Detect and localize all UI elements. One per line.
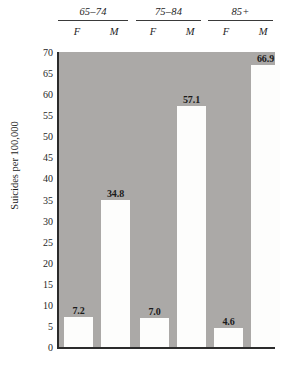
sex-label-85-plus-female: F bbox=[211, 26, 241, 37]
y-tick-50: 50 bbox=[27, 131, 53, 142]
bar-65-74-female bbox=[64, 317, 93, 347]
sex-label-75-84-female: F bbox=[138, 26, 168, 37]
y-tick-60: 60 bbox=[27, 89, 53, 100]
y-axis-label: Suicides per 100,000 bbox=[9, 96, 20, 236]
y-axis-ticks: 70 65 60 55 50 45 40 35 30 25 20 15 10 5… bbox=[25, 52, 53, 347]
y-tick-30: 30 bbox=[27, 215, 53, 226]
y-tick-65: 65 bbox=[27, 68, 53, 79]
y-tick-20: 20 bbox=[27, 257, 53, 268]
y-tick-25: 25 bbox=[27, 236, 53, 247]
sex-label-75-84-male: M bbox=[175, 26, 205, 37]
y-tick-40: 40 bbox=[27, 173, 53, 184]
group-rule-85-plus bbox=[208, 20, 273, 21]
group-label-65-74: 65–74 bbox=[58, 6, 128, 18]
y-tick-35: 35 bbox=[27, 194, 53, 205]
sex-label-85-plus-male: M bbox=[248, 26, 278, 37]
bar-65-74-male bbox=[101, 200, 130, 347]
y-tick-10: 10 bbox=[27, 299, 53, 310]
group-label-75-84: 75–84 bbox=[136, 6, 201, 18]
bar-85-plus-female bbox=[214, 328, 243, 347]
bar-value-65-74-female: 7.2 bbox=[59, 305, 99, 316]
bar-value-65-74-male: 34.8 bbox=[96, 188, 136, 199]
plot-area: 7.2 34.8 7.0 57.1 4.6 66.9 bbox=[57, 52, 275, 349]
group-rule-75-84 bbox=[136, 20, 201, 21]
y-tick-70: 70 bbox=[27, 47, 53, 58]
y-tick-45: 45 bbox=[27, 152, 53, 163]
bar-85-plus-male bbox=[251, 65, 280, 347]
sex-label-65-74-female: F bbox=[62, 26, 92, 37]
sex-label-65-74-male: M bbox=[99, 26, 129, 37]
y-tick-5: 5 bbox=[27, 320, 53, 331]
bar-75-84-male bbox=[177, 106, 206, 347]
y-tick-55: 55 bbox=[27, 110, 53, 121]
y-tick-15: 15 bbox=[27, 278, 53, 289]
bar-value-85-plus-male: 66.9 bbox=[246, 53, 286, 64]
y-tick-0: 0 bbox=[27, 342, 53, 353]
group-label-85-plus: 85+ bbox=[208, 6, 273, 18]
suicide-rate-bar-chart: 65–74 75–84 85+ F M F M F M 70 65 60 55 … bbox=[0, 0, 285, 366]
bar-value-75-84-female: 7.0 bbox=[135, 306, 175, 317]
bar-value-75-84-male: 57.1 bbox=[172, 94, 212, 105]
bar-75-84-female bbox=[140, 318, 169, 348]
group-rule-65-74 bbox=[58, 20, 128, 21]
bar-value-85-plus-female: 4.6 bbox=[209, 316, 249, 327]
